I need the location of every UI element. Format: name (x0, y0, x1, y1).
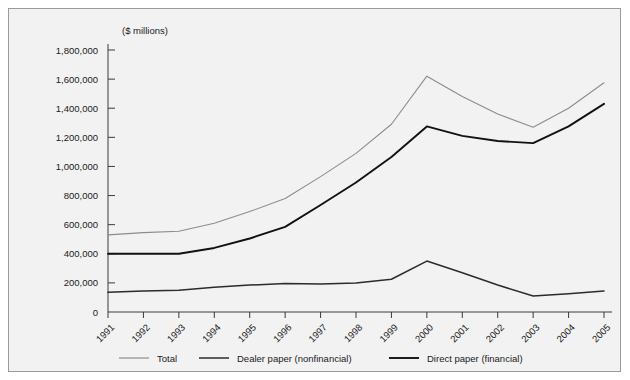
x-tick-label: 1997 (306, 322, 329, 345)
x-tick-label: 2000 (413, 322, 436, 345)
y-tick-label: 0 (93, 307, 98, 318)
y-tick-label: 600,000 (64, 219, 98, 230)
x-tick-label: 1991 (94, 322, 117, 345)
y-tick-label: 1,600,000 (56, 74, 98, 85)
series-line-0 (108, 76, 604, 235)
y-tick-label: 1,200,000 (56, 132, 98, 143)
y-tick-label: 1,400,000 (56, 103, 98, 114)
x-axis-ticks: 1991199219931994199519961997199819992000… (94, 312, 613, 344)
y-tick-label: 1,800,000 (56, 45, 98, 56)
x-tick-label: 1995 (235, 322, 258, 345)
data-series (108, 76, 604, 296)
line-chart: 0200,000400,000600,000800,0001,000,0001,… (9, 9, 622, 373)
series-line-1 (108, 261, 604, 296)
x-tick-label: 1992 (129, 322, 152, 345)
unit-label-text: ($ millions) (122, 25, 168, 36)
legend-label-2: Direct paper (financial) (427, 353, 523, 364)
x-tick-label: 2005 (590, 322, 613, 345)
legend-label-1: Dealer paper (nonfinancial) (237, 353, 352, 364)
legend-label-0: Total (157, 353, 177, 364)
x-tick-label: 1993 (165, 322, 188, 345)
clipped-caption-text (0, 0, 630, 7)
y-tick-label: 1,000,000 (56, 161, 98, 172)
x-tick-label: 1996 (271, 322, 294, 345)
axes (108, 44, 612, 312)
x-tick-label: 1994 (200, 322, 223, 345)
chart-legend: TotalDealer paper (nonfinancial)Direct p… (119, 353, 523, 364)
y-axis-ticks: 0200,000400,000600,000800,0001,000,0001,… (56, 45, 115, 318)
y-axis-unit-label: ($ millions) (122, 25, 168, 36)
x-tick-label: 2003 (519, 322, 542, 345)
chart-plot-area: 0200,000400,000600,000800,0001,000,0001,… (9, 9, 622, 373)
x-tick-label: 1999 (377, 322, 400, 345)
y-tick-label: 400,000 (64, 248, 98, 259)
y-tick-label: 200,000 (64, 277, 98, 288)
x-tick-label: 2002 (483, 322, 506, 345)
x-tick-label: 2001 (448, 322, 471, 345)
y-tick-label: 800,000 (64, 190, 98, 201)
exhibit-panel: 0200,000400,000600,000800,0001,000,0001,… (8, 8, 621, 372)
x-tick-label: 1998 (342, 322, 365, 345)
figure-container: 0200,000400,000600,000800,0001,000,0001,… (0, 0, 630, 380)
x-tick-label: 2004 (554, 322, 577, 345)
